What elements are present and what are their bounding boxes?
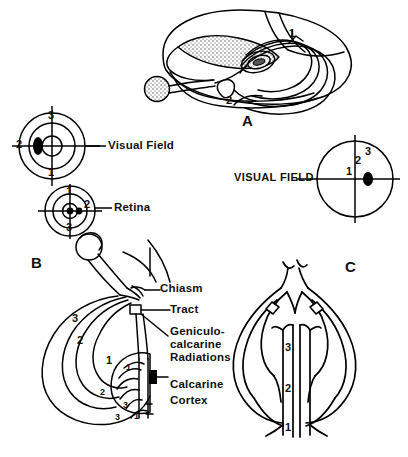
vfr-scotoma-marker: [363, 172, 373, 186]
panel-b-cortex-zone-1: 1: [126, 363, 131, 373]
retina-image-point: [76, 208, 83, 215]
panel-letter-a: A: [242, 113, 253, 129]
panel-letter-b: B: [31, 255, 42, 271]
retina-zone-1: 1: [66, 186, 72, 198]
vfr-zone-1: 1: [346, 166, 352, 178]
panel-letter-c: C: [345, 259, 356, 275]
panel-a-zone-2: 2: [226, 95, 232, 107]
eyeball-globe: [145, 77, 170, 102]
radiations-label-line1: Geniculo-: [170, 325, 225, 337]
retina-fovea-dot: [67, 208, 74, 215]
panel-b-cortex-zone-1b: 1: [134, 412, 139, 422]
radiations-label-line2: calcarine: [170, 338, 222, 350]
panel-c-zone-3: 3: [285, 342, 291, 354]
retina-label: Retina: [114, 201, 150, 213]
vf-zone-1: 1: [48, 167, 54, 179]
vf-zone-2: 2: [16, 139, 22, 151]
panel-b-cortex-zone-2: 2: [100, 388, 105, 398]
panel-a-zone-1: 1: [289, 28, 295, 40]
calcarine-cortex-label-line1: Calcarine: [170, 378, 224, 390]
vfr-zone-3: 3: [365, 146, 371, 158]
retina-zone-2: 2: [84, 199, 90, 211]
panel-b-zone-3-outer: 3: [72, 313, 78, 325]
panel-c-zone-2: 2: [285, 383, 291, 395]
radiations-label-line3: Radiations: [170, 351, 231, 363]
panel-b-zone-2-middle: 2: [77, 335, 83, 347]
panel-b-cortex-zone-3b: 3: [115, 413, 120, 423]
vfr-zone-2: 2: [355, 155, 361, 167]
visual-field-right-label: VISUAL FIELD: [234, 172, 314, 184]
panel-c-zone-1: 1: [285, 422, 291, 434]
retina-zone-3: 3: [66, 222, 72, 234]
panel-b-cortex-zone-3a: 3: [123, 401, 128, 411]
vf-scotoma-marker: [33, 137, 43, 155]
lateral-geniculate-body-b: [130, 305, 141, 314]
panel-b-zone-1-inner: 1: [106, 355, 112, 367]
calcarine-cortex-label-line2: Cortex: [170, 394, 208, 406]
tract-label: Tract: [170, 303, 199, 315]
visual-field-left-label: Visual Field: [108, 139, 174, 151]
vf-zone-3: 3: [48, 110, 54, 122]
chiasm-label: Chiasm: [160, 282, 203, 294]
